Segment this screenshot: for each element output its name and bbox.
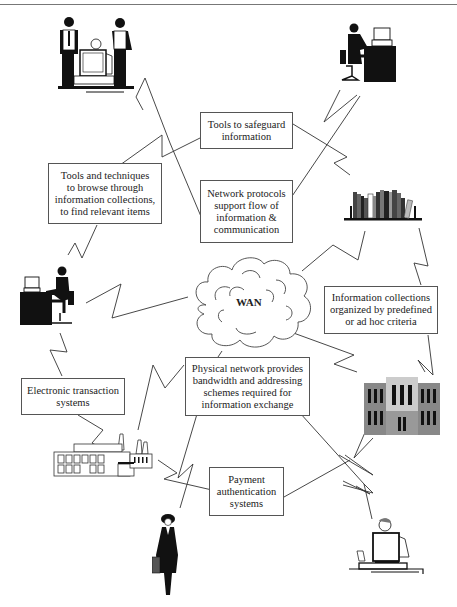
box-line: authentication xyxy=(217,486,276,498)
library-building-icon xyxy=(364,377,440,435)
box-line: information collections, xyxy=(55,194,155,206)
box-line: to find relevant items xyxy=(60,206,150,218)
box-line: information exchange xyxy=(202,399,294,411)
safeguard-info-box: Tools to safeguard information xyxy=(200,112,293,149)
person-at-desk-icon xyxy=(338,22,400,84)
bookshelf-icon xyxy=(344,186,430,224)
box-line: bandwidth and addressing xyxy=(193,375,303,387)
box-line: schemes required for xyxy=(203,387,291,399)
electronic-transaction-box: Electronic transaction systems xyxy=(21,378,125,415)
payment-authentication-box: Payment authentication systems xyxy=(209,467,284,516)
browse-tools-box: Tools and techniques to browse through i… xyxy=(48,163,162,224)
box-line: systems xyxy=(230,498,263,510)
box-line: or ad hoc criteria xyxy=(345,316,416,328)
businesswoman-icon xyxy=(152,513,184,599)
box-line: support flow of xyxy=(214,200,279,212)
box-line: communication xyxy=(214,224,279,236)
box-line: Payment xyxy=(228,474,265,486)
box-line: information xyxy=(222,131,272,143)
person-at-laptop-icon xyxy=(349,517,425,577)
box-line: Information collections xyxy=(332,292,430,304)
box-line: Electronic transaction xyxy=(27,385,119,397)
box-line: Tools to safeguard xyxy=(208,119,285,131)
box-line: Tools and techniques xyxy=(61,170,150,182)
person-at-desk-icon xyxy=(20,265,78,327)
information-collections-box: Information collections organized by pre… xyxy=(324,286,438,334)
team-at-computer-icon xyxy=(56,14,136,96)
box-line: systems xyxy=(56,397,89,409)
network-protocols-box: Network protocols support flow of inform… xyxy=(200,180,293,243)
physical-network-box: Physical network provides bandwidth and … xyxy=(185,357,310,416)
wan-label: WAN xyxy=(236,296,262,308)
box-line: Network protocols xyxy=(207,188,285,200)
box-line: information & xyxy=(216,212,276,224)
box-line: organized by predefined xyxy=(330,304,432,316)
box-line: Physical network provides xyxy=(192,363,303,375)
box-line: to browse through xyxy=(67,182,143,194)
factory-icon xyxy=(52,430,154,480)
